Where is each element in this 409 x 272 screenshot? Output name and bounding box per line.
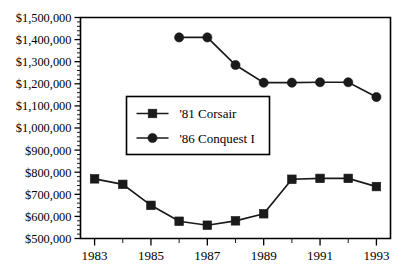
data-point-marker	[344, 174, 353, 183]
x-axis-tick-label: 1987	[194, 248, 221, 263]
legend-circle-marker-icon	[148, 133, 157, 142]
data-point-marker	[315, 78, 324, 87]
y-axis-tick-label: $1,200,000	[16, 77, 72, 91]
data-point-marker	[118, 180, 127, 189]
data-point-marker	[372, 92, 381, 101]
x-axis-tick-label: 1991	[307, 248, 333, 263]
y-axis-tick-label: $700,000	[25, 188, 71, 202]
y-axis-tick-label: $1,400,000	[16, 33, 72, 47]
data-point-marker	[231, 60, 240, 69]
data-point-marker	[259, 78, 268, 87]
line-chart: $500,000$600,000$700,000$800,000$900,000…	[0, 0, 409, 272]
data-point-marker	[203, 33, 212, 42]
y-axis-tick-labels: $500,000$600,000$700,000$800,000$900,000…	[16, 11, 72, 246]
data-point-marker	[287, 78, 296, 87]
data-point-marker	[175, 217, 184, 226]
y-axis-tick-label: $1,300,000	[16, 55, 72, 69]
data-point-marker	[203, 221, 212, 230]
legend-entry-label: '81 Corsair	[180, 106, 238, 121]
y-axis-tick-label: $800,000	[25, 166, 71, 180]
data-point-marker	[344, 78, 353, 87]
x-axis-tick-label: 1993	[363, 248, 389, 263]
data-point-marker	[147, 201, 156, 210]
x-axis-tick-label: 1989	[251, 248, 277, 263]
data-point-marker	[259, 209, 268, 218]
y-axis-tick-label: $1,000,000	[16, 121, 72, 135]
data-point-marker	[175, 33, 184, 42]
y-axis-tick-label: $600,000	[25, 210, 71, 224]
y-axis-tick-label: $900,000	[25, 144, 71, 158]
data-point-marker	[288, 175, 297, 184]
legend-square-marker-icon	[148, 109, 157, 118]
y-axis-tick-label: $1,100,000	[16, 99, 72, 113]
chart-canvas: $500,000$600,000$700,000$800,000$900,000…	[0, 0, 409, 272]
data-point-marker	[90, 175, 99, 184]
y-axis-tick-label: $1,500,000	[16, 11, 72, 25]
x-axis-tick-label: 1985	[138, 248, 164, 263]
data-point-marker	[231, 217, 240, 226]
data-point-marker	[316, 174, 325, 183]
x-axis-tick-label: 1983	[82, 248, 108, 263]
data-point-marker	[372, 182, 381, 191]
legend-entry-label: '86 Conquest I	[180, 131, 255, 146]
chart-legend: '81 Corsair'86 Conquest I	[127, 97, 270, 155]
y-axis-tick-label: $500,000	[25, 232, 71, 246]
